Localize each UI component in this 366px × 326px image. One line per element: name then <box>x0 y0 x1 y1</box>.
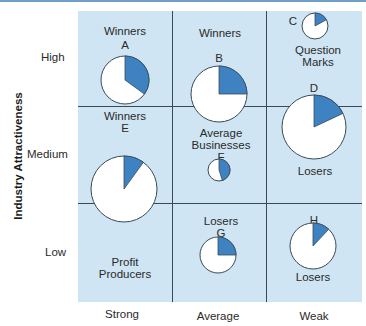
pie-slice-g <box>218 237 236 255</box>
pie-business-h <box>288 221 338 271</box>
y-level-low: Low <box>45 246 66 258</box>
pie-business-e <box>89 154 159 224</box>
grid-divider-vertical-2 <box>266 11 267 302</box>
y-axis-title: Industry Attractiveness <box>12 86 24 226</box>
pie-business-a <box>99 54 151 106</box>
pie-business-g <box>198 235 238 275</box>
cell-label-medium-weak: Losers <box>290 165 340 178</box>
grid-divider-vertical-1 <box>172 11 173 302</box>
cell-label-low-weak: Losers <box>288 271 338 284</box>
pie-business-c <box>300 11 330 41</box>
cell-label-high-strong: Winners <box>103 25 147 38</box>
y-level-medium: Medium <box>27 148 68 160</box>
x-level-average: Average <box>178 310 258 322</box>
y-level-high: High <box>41 51 65 63</box>
cell-label-high-average: Winners <box>195 27 245 40</box>
business-label-c: C <box>286 15 300 28</box>
pie-business-f <box>206 157 232 183</box>
business-label-a: A <box>117 39 133 52</box>
pie-slice-b <box>219 66 247 94</box>
cell-label-low-strong-2: Producers <box>94 268 156 281</box>
x-level-weak: Weak <box>274 310 354 322</box>
pie-business-b <box>189 64 249 124</box>
business-label-e: E <box>117 122 133 135</box>
pie-business-d <box>280 93 348 161</box>
cell-label-high-weak-2: Marks <box>288 56 348 69</box>
top-border-bar <box>0 0 366 2</box>
x-level-strong: Strong <box>82 308 162 320</box>
